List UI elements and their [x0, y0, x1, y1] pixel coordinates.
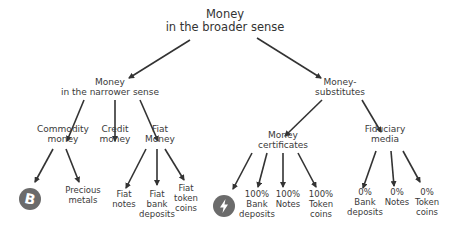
node-line: certificates: [258, 140, 308, 150]
node-line: Commodity: [37, 124, 89, 134]
node-line: media: [365, 134, 405, 144]
node-line: Fiduciary: [365, 124, 405, 134]
node-fiat-token-coins: Fiat token coins: [174, 184, 198, 213]
node-fiduciary-media: Fiduciary media: [365, 124, 405, 145]
node-fiat-notes: Fiat notes: [112, 190, 136, 210]
node-line: metals: [65, 196, 101, 206]
node-line: Money: [258, 130, 308, 140]
node-line: money: [37, 134, 89, 144]
node-line: in the narrower sense: [61, 87, 159, 97]
node-line: Notes: [276, 200, 301, 210]
node-line: deposits: [239, 210, 275, 220]
node-line: Fiat: [145, 124, 175, 134]
node-fiat-money: Fiat Money: [145, 124, 175, 145]
node-money-substitutes: Money- substitutes: [315, 77, 365, 98]
lightning-icon: [213, 195, 235, 217]
svg-text:B: B: [23, 190, 37, 208]
node-line: coins: [309, 210, 333, 220]
node-line: in the broader sense: [166, 21, 285, 34]
node-100-notes: 100% Notes: [276, 190, 301, 210]
node-line: deposits: [139, 210, 175, 220]
node-100-token-coins: 100% Token coins: [309, 190, 333, 219]
node-0-token-coins: 0% Token coins: [415, 188, 439, 217]
node-line: deposits: [347, 208, 383, 218]
node-money-certificates: Money certificates: [258, 130, 308, 151]
node-line: Credit: [100, 124, 131, 134]
node-commodity-money: Commodity money: [37, 124, 89, 145]
node-line: coins: [174, 204, 198, 214]
node-line: money: [100, 134, 131, 144]
node-money-broader: Money in the broader sense: [166, 8, 285, 34]
node-line: Notes: [385, 198, 410, 208]
node-0-notes: 0% Notes: [385, 188, 410, 208]
node-line: Money: [61, 77, 159, 87]
node-100-bank-deposits: 100% Bank deposits: [239, 190, 275, 219]
node-precious-metals: Precious metals: [65, 186, 101, 206]
node-money-narrower: Money in the narrower sense: [61, 77, 159, 98]
bitcoin-icon: B: [19, 188, 41, 210]
node-line: Money: [145, 134, 175, 144]
node-line: notes: [112, 200, 136, 210]
node-line: Money-: [315, 77, 365, 87]
node-line: substitutes: [315, 87, 365, 97]
node-line: coins: [415, 208, 439, 218]
node-fiat-bank-deposits: Fiat bank deposits: [139, 190, 175, 219]
node-0-bank-deposits: 0% Bank deposits: [347, 188, 383, 217]
node-credit-money: Credit money: [100, 124, 131, 145]
